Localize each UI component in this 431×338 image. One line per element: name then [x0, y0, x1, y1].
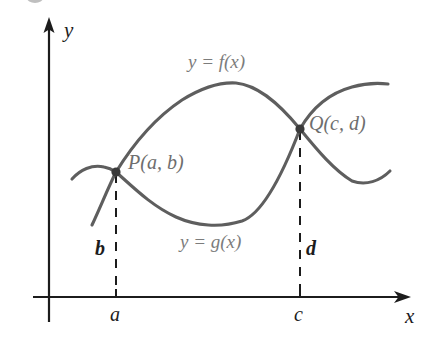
y-axis: [44, 17, 55, 322]
tick-label-a: a: [110, 304, 120, 324]
x-axis: [33, 291, 411, 303]
tick-label-c: c: [294, 304, 303, 324]
graph-figure: y x y = f(x) y = g(x) P(a, b) Q(c, d) b …: [0, 0, 431, 338]
axis-ticks: [116, 289, 300, 297]
point-marker-q: [295, 124, 304, 133]
point-label-p: P(a, b): [128, 152, 184, 172]
x-axis-label: x: [405, 306, 414, 327]
value-label-d: d: [306, 238, 316, 258]
value-label-b: b: [95, 238, 105, 258]
curve-label-f: y = f(x): [188, 52, 245, 71]
point-marker-p: [111, 167, 120, 176]
point-label-q: Q(c, d): [309, 113, 366, 133]
y-axis-label: y: [64, 20, 73, 41]
curve-label-g: y = g(x): [180, 232, 241, 251]
curve-g: [72, 83, 388, 225]
